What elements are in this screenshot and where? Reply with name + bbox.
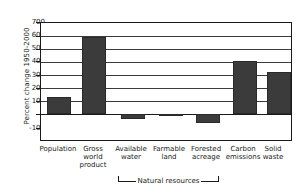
bar-carbon-emissions <box>233 61 257 114</box>
bar-solid-waste <box>267 72 291 114</box>
bar-forested-acreage <box>196 114 220 123</box>
bar-population <box>47 97 71 114</box>
bar-gross-world-product <box>82 37 106 114</box>
bracket-label: Natural resources <box>118 177 219 185</box>
bar-chart-figure: Percent change 1950-2000 700 600 500 400… <box>0 0 300 194</box>
gridline-600 <box>41 36 291 37</box>
x-label-solid-waste: Solid waste <box>248 145 298 161</box>
natural-resources-bracket: Natural resources <box>118 172 219 182</box>
bar-farmable-land <box>159 114 183 116</box>
bar-available-water <box>121 114 145 119</box>
plot-area <box>40 22 292 141</box>
gridline-500 <box>41 49 291 50</box>
